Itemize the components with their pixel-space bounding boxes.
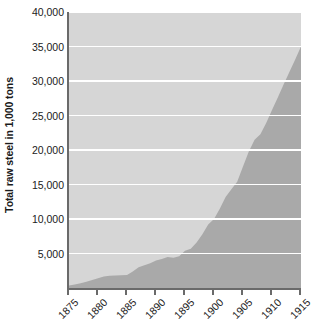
x-tick bbox=[270, 289, 272, 295]
x-tick-label: 1885 bbox=[113, 296, 138, 321]
y-axis-line bbox=[67, 12, 69, 289]
x-tick bbox=[183, 289, 185, 295]
y-tick-label: 25,000 bbox=[32, 110, 64, 122]
x-tick bbox=[154, 289, 156, 295]
x-tick bbox=[212, 289, 214, 295]
y-tick-label: 30,000 bbox=[32, 75, 64, 87]
y-tick-label: 40,000 bbox=[32, 6, 64, 18]
y-axis-tick-labels: 5,00010,00015,00020,00025,00030,00035,00… bbox=[16, 0, 66, 295]
x-tick-label: 1905 bbox=[229, 296, 254, 321]
y-tick-label: 20,000 bbox=[32, 144, 64, 156]
x-tick bbox=[241, 289, 243, 295]
x-tick-label: 1910 bbox=[258, 296, 283, 321]
x-tick bbox=[125, 289, 127, 295]
gridline bbox=[69, 115, 301, 117]
x-axis-tick-labels: 187518801885189018951900190519101915 bbox=[0, 296, 313, 326]
plot-area bbox=[68, 12, 301, 288]
x-tick bbox=[67, 289, 69, 295]
y-tick-label: 10,000 bbox=[32, 213, 64, 225]
gridline bbox=[69, 46, 301, 48]
x-tick-label: 1875 bbox=[55, 296, 80, 321]
x-tick bbox=[96, 289, 98, 295]
y-tick-label: 15,000 bbox=[32, 179, 64, 191]
y-axis-title-text: Total raw steel in 1,000 tons bbox=[3, 77, 15, 213]
gridline bbox=[69, 149, 301, 151]
gridline bbox=[69, 253, 301, 255]
gridline bbox=[69, 184, 301, 186]
x-tick-label: 1880 bbox=[84, 296, 109, 321]
x-tick-label: 1915 bbox=[287, 296, 312, 321]
y-tick-label: 35,000 bbox=[32, 41, 64, 53]
y-tick-label: 5,000 bbox=[38, 248, 64, 260]
gridline bbox=[69, 12, 301, 13]
gridline bbox=[69, 80, 301, 82]
x-tick-label: 1890 bbox=[142, 296, 167, 321]
x-tick-label: 1900 bbox=[200, 296, 225, 321]
gridline bbox=[69, 218, 301, 220]
steel-production-area-chart: Total raw steel in 1,000 tons 5,00010,00… bbox=[0, 0, 313, 326]
x-tick bbox=[299, 289, 301, 295]
x-tick-label: 1895 bbox=[171, 296, 196, 321]
